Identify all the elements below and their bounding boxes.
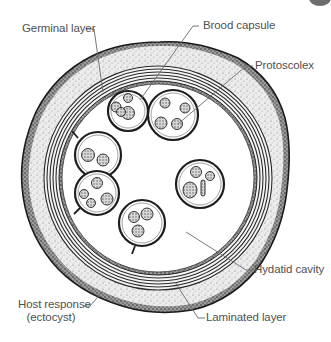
label-host-response: Host response (ectocyst)	[18, 298, 84, 324]
brood-capsule	[176, 160, 224, 208]
label-host-response-line1: Host response	[18, 298, 84, 311]
protoscolex	[117, 108, 126, 117]
protoscolex	[124, 94, 133, 103]
protoscolex	[183, 182, 197, 198]
protoscolex-evaginated	[201, 180, 205, 196]
protoscolex	[160, 98, 170, 108]
protoscolex	[87, 199, 96, 208]
brood-capsule	[74, 171, 119, 215]
protoscolex	[172, 119, 183, 130]
protoscolex	[141, 208, 153, 220]
label-germinal-layer: Germinal layer	[22, 22, 95, 35]
protoscolex	[132, 225, 144, 237]
label-laminated-layer: Laminated layer	[206, 311, 286, 324]
protoscolex	[191, 167, 202, 178]
protoscolex	[97, 154, 109, 166]
protoscolex	[206, 172, 215, 181]
label-protoscolex: Protoscolex	[255, 59, 314, 72]
protoscolex	[80, 190, 89, 199]
label-hydatid-cavity: Hydatid cavity	[254, 263, 324, 276]
protoscolex	[180, 103, 190, 113]
protoscolex	[129, 212, 140, 223]
label-host-response-line2: (ectocyst)	[18, 311, 84, 324]
protoscolex	[92, 178, 103, 189]
protoscolex	[101, 193, 113, 205]
label-brood-capsule: Brood capsule	[203, 19, 275, 32]
brood-capsule	[148, 90, 198, 140]
protoscolex	[82, 149, 95, 162]
protoscolex	[155, 117, 167, 129]
